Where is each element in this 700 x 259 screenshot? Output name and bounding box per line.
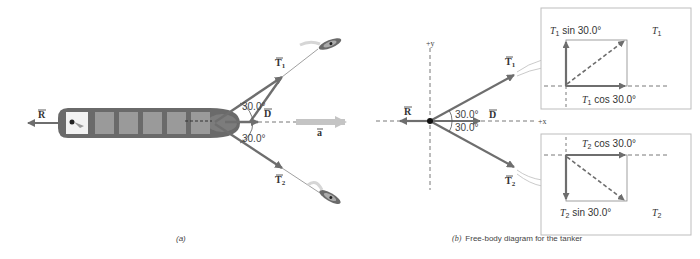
origin-point	[427, 118, 433, 124]
caption-a: (a)	[176, 234, 186, 243]
tanker-force-diagram: R T1	[0, 0, 700, 259]
angle-bottom-a: 30.0°	[242, 133, 265, 144]
tanker-ship	[58, 108, 240, 138]
angle-bottom-b: 30.0°	[455, 122, 478, 133]
tugboat-1	[317, 36, 342, 52]
tow-line-1	[282, 49, 318, 77]
tugboat-2	[318, 188, 343, 207]
axis-y-label: +y	[426, 39, 435, 48]
bridge-icon	[66, 112, 88, 134]
figure-b: +x +y R D T1 T2 30.0° 30.0°	[376, 8, 691, 243]
caption-b: (b)Free-body diagram for the tanker	[452, 234, 583, 243]
fbd-label-t1: T1	[505, 56, 516, 69]
inset-t2-components: T2 cos 30.0° T2 sin 30.0° T2	[541, 134, 691, 235]
cargo-hold-4	[167, 112, 186, 134]
cargo-hold-1	[95, 112, 114, 134]
label-r: R	[38, 109, 46, 120]
vector-t2-arrow	[215, 124, 282, 168]
fbd-label-r: R	[404, 106, 412, 117]
label-t1: T1	[275, 57, 286, 70]
angle-top-b: 30.0°	[455, 109, 478, 120]
axis-x-label: +x	[538, 117, 547, 126]
cargo-hold-2	[119, 112, 138, 134]
tow-line-2	[282, 168, 320, 193]
fbd-label-t2: T2	[505, 175, 516, 188]
figure-a: R T1	[28, 36, 345, 243]
vector-t1-arrow	[215, 77, 282, 122]
label-t2: T2	[275, 174, 286, 187]
inset-t1-components: T1 sin 30.0° T1 T1 cos 30.0°	[541, 8, 691, 109]
cargo-hold-5	[191, 112, 210, 134]
label-d: D	[264, 108, 271, 119]
fbd-label-d: D	[489, 109, 496, 120]
cargo-hold-3	[143, 112, 162, 134]
angle-top-a: 30.0°	[242, 101, 265, 112]
